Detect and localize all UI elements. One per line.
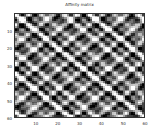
y-tick: 30 bbox=[7, 63, 12, 68]
x-tick: 10 bbox=[33, 121, 38, 126]
y-tick: 60 bbox=[7, 116, 12, 121]
y-tick: 20 bbox=[7, 46, 12, 51]
x-tick: 40 bbox=[99, 121, 104, 126]
y-tick: 40 bbox=[7, 81, 12, 86]
heatmap-plot-area bbox=[14, 13, 145, 118]
x-tick: 50 bbox=[121, 121, 126, 126]
y-tick: 50 bbox=[7, 98, 12, 103]
y-tick: 10 bbox=[7, 28, 12, 33]
x-tick: 60 bbox=[142, 121, 147, 126]
chart-title: Affinity matrix bbox=[14, 2, 145, 7]
x-tick: 30 bbox=[77, 121, 82, 126]
x-tick: 20 bbox=[55, 121, 60, 126]
affinity-heatmap bbox=[15, 14, 144, 117]
